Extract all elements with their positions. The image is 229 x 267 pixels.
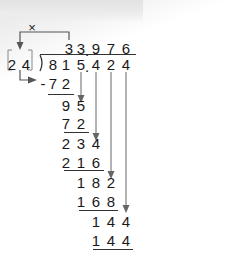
dividend-digit: 4 (90, 57, 102, 72)
step-digit: 8 (90, 175, 102, 190)
step-digit: 5 (75, 98, 87, 113)
quotient-digit: 3 (63, 41, 75, 56)
step-digit: 9 (60, 98, 72, 113)
step-digit: 2 (60, 155, 72, 170)
divisor-digit: 4 (20, 57, 32, 72)
step-digit: 2 (60, 76, 72, 91)
step-digit: 2 (60, 136, 72, 151)
quotient-digit: 9 (90, 41, 102, 56)
step-digit: 4 (105, 214, 117, 229)
dividend-digit: 4 (120, 57, 132, 72)
dividend-digit: 8 (47, 57, 59, 72)
step-digit: 3 (75, 136, 87, 151)
step-digit: 1 (75, 194, 87, 209)
arrowhead-down-icon (17, 42, 24, 50)
step-digit: 1 (90, 214, 102, 229)
division-bracket (40, 55, 42, 71)
quotient-digit: 6 (120, 41, 132, 56)
step-digit: 1 (90, 233, 102, 248)
multiply-arrow (20, 32, 69, 43)
arrowhead-right-icon (28, 77, 37, 84)
step-digit: 8 (105, 194, 117, 209)
step-digit: 4 (90, 136, 102, 151)
dividend-digit: 2 (105, 57, 117, 72)
step-digit: 7 (47, 76, 59, 91)
step-digit: 1 (75, 155, 87, 170)
step-digit: 2 (75, 116, 87, 131)
step-digit: 4 (105, 233, 117, 248)
step-digit: 2 (105, 175, 117, 190)
step-digit: 1 (75, 175, 87, 190)
quotient-digit: 7 (105, 41, 117, 56)
divisor-digit: 2 (6, 57, 18, 72)
step-digit: 7 (60, 116, 72, 131)
step-digit: 6 (90, 194, 102, 209)
step-digit: 4 (120, 233, 132, 248)
dividend-digit: 1 (60, 57, 72, 72)
step-digit: 4 (120, 214, 132, 229)
step-digit: 6 (90, 155, 102, 170)
